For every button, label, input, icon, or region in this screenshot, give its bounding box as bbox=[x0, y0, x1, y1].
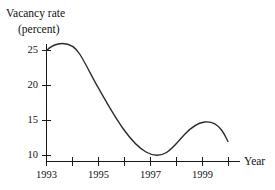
x-tick-label-1997: 1997 bbox=[131, 170, 171, 181]
y-tick-label-10: 10 bbox=[16, 150, 38, 161]
x-tick-label-1995: 1995 bbox=[79, 170, 119, 181]
chart-title-line-1: Vacancy rate bbox=[6, 8, 65, 20]
x-tick-label-1993: 1993 bbox=[27, 170, 67, 181]
y-tick-label-15: 15 bbox=[16, 115, 38, 126]
x-axis-title: Year bbox=[244, 156, 265, 168]
y-tick-label-25: 25 bbox=[16, 45, 38, 56]
y-tick-label-20: 20 bbox=[16, 80, 38, 91]
chart-title-line-2: (percent) bbox=[18, 24, 60, 36]
vacancy-rate-chart: Vacancy rate (percent) 25 20 15 10 1993 … bbox=[0, 0, 275, 190]
x-tick-label-1999: 1999 bbox=[183, 170, 223, 181]
vacancy-rate-curve bbox=[47, 44, 229, 156]
